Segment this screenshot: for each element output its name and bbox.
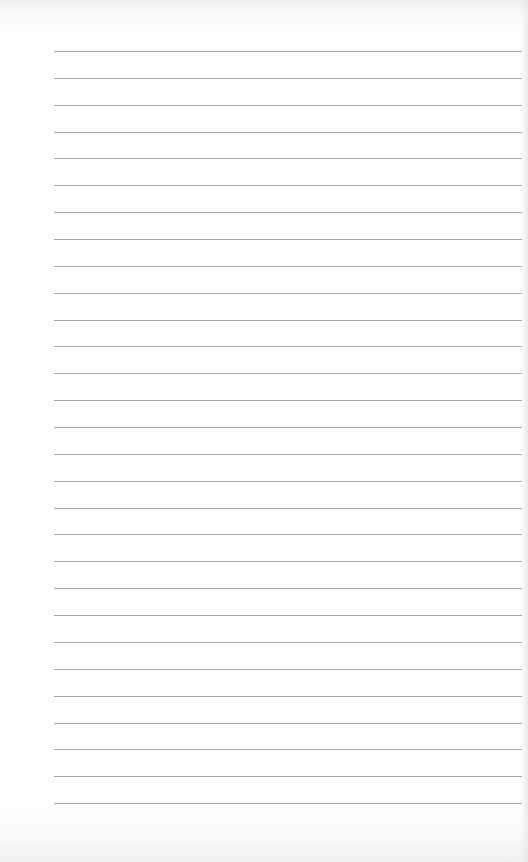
ruled-line <box>54 642 522 643</box>
ruled-line <box>54 454 522 455</box>
ruled-line <box>54 158 522 159</box>
ruled-line <box>54 212 522 213</box>
ruled-line <box>54 776 522 777</box>
ruled-line <box>54 185 522 186</box>
notebook-page <box>0 0 528 862</box>
ruled-line <box>54 320 522 321</box>
ruled-line <box>54 803 522 804</box>
ruled-line <box>54 669 522 670</box>
ruled-line <box>54 481 522 482</box>
ruled-line <box>54 239 522 240</box>
ruled-line <box>54 400 522 401</box>
ruled-line <box>54 561 522 562</box>
ruled-line <box>54 534 522 535</box>
ruled-line <box>54 266 522 267</box>
ruled-line <box>54 373 522 374</box>
ruled-line <box>54 588 522 589</box>
ruled-line <box>54 723 522 724</box>
ruled-line <box>54 293 522 294</box>
ruled-line <box>54 105 522 106</box>
ruled-line <box>54 132 522 133</box>
ruled-line <box>54 346 522 347</box>
ruled-line <box>54 615 522 616</box>
ruled-line <box>54 427 522 428</box>
ruled-line <box>54 749 522 750</box>
ruled-line <box>54 51 522 52</box>
ruled-line <box>54 508 522 509</box>
ruled-line <box>54 696 522 697</box>
ruled-line <box>54 78 522 79</box>
